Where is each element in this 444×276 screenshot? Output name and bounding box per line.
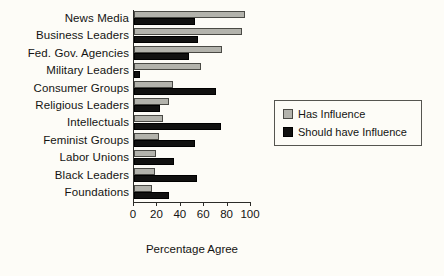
bar-has-influence [134, 133, 159, 140]
chart-legend: Has Influence Should have Influence [274, 100, 422, 146]
bar-has-influence [134, 46, 222, 53]
bar-has-influence [134, 150, 156, 157]
plot-area [133, 10, 251, 202]
category-label: Fed. Gov. Agencies [0, 47, 129, 59]
x-tick-label: 60 [197, 208, 210, 221]
bar-should-have-influence [134, 88, 216, 95]
bar-should-have-influence [134, 18, 195, 25]
bar-should-have-influence [134, 175, 197, 182]
x-tick [227, 202, 228, 206]
legend-swatch-should-have-influence [283, 127, 293, 137]
bar-has-influence [134, 11, 245, 18]
x-tick [250, 202, 251, 206]
bar-should-have-influence [134, 192, 169, 199]
category-label: Business Leaders [0, 29, 129, 41]
category-label: Consumer Groups [0, 82, 129, 94]
bar-has-influence [134, 168, 155, 175]
category-label: Intellectuals [0, 116, 129, 128]
category-label: Feminist Groups [0, 134, 129, 146]
category-label: News Media [0, 12, 129, 24]
bar-should-have-influence [134, 53, 189, 60]
bar-has-influence [134, 28, 242, 35]
category-label: Military Leaders [0, 64, 129, 76]
x-tick [133, 202, 134, 206]
bar-should-have-influence [134, 36, 198, 43]
legend-item-has-influence: Has Influence [283, 107, 365, 120]
category-label: Religious Leaders [0, 99, 129, 111]
x-tick-label: 20 [150, 208, 163, 221]
bar-has-influence [134, 98, 169, 105]
x-axis-line [133, 202, 251, 203]
x-tick-label: 100 [240, 208, 259, 221]
legend-label-has-influence: Has Influence [298, 108, 365, 120]
x-tick [156, 202, 157, 206]
category-label: Labor Unions [0, 151, 129, 163]
bar-has-influence [134, 63, 201, 70]
x-tick [180, 202, 181, 206]
legend-label-should-have-influence: Should have Influence [298, 126, 407, 138]
bar-should-have-influence [134, 105, 160, 112]
category-label: Black Leaders [0, 169, 129, 181]
legend-item-should-have-influence: Should have Influence [283, 125, 407, 138]
x-tick [203, 202, 204, 206]
bar-should-have-influence [134, 71, 140, 78]
bar-should-have-influence [134, 123, 221, 130]
bar-has-influence [134, 81, 173, 88]
category-axis-labels: News MediaBusiness LeadersFed. Gov. Agen… [0, 10, 131, 202]
bar-has-influence [134, 185, 152, 192]
x-tick-label: 0 [130, 208, 136, 221]
x-axis-label: Percentage Agree [133, 243, 251, 255]
legend-swatch-has-influence [283, 109, 293, 119]
x-tick-label: 80 [220, 208, 233, 221]
bar-should-have-influence [134, 158, 174, 165]
bar-should-have-influence [134, 140, 195, 147]
bar-has-influence [134, 115, 163, 122]
x-tick-label: 40 [173, 208, 186, 221]
bar-chart: News MediaBusiness LeadersFed. Gov. Agen… [0, 0, 444, 276]
category-label: Foundations [0, 186, 129, 198]
